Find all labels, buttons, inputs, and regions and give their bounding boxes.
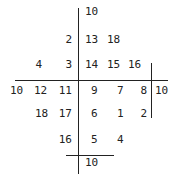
grid-number: 10 xyxy=(155,85,173,97)
grid-number: 10 xyxy=(10,85,28,97)
grid-number: 12 xyxy=(34,85,52,97)
grid-number: 2 xyxy=(54,34,72,46)
grid-number: 4 xyxy=(117,134,135,146)
grid-number: 3 xyxy=(54,59,72,71)
grid-number: 15 xyxy=(107,59,125,71)
grid-number: 13 xyxy=(85,34,103,46)
main-vertical-line xyxy=(78,8,79,174)
grid-number: 10 xyxy=(85,6,103,18)
grid-number: 4 xyxy=(24,59,42,71)
grid-number: 17 xyxy=(54,108,72,120)
main-horizontal-line xyxy=(15,80,168,81)
grid-number: 16 xyxy=(54,134,72,146)
grid-number: 14 xyxy=(85,59,103,71)
grid-number: 18 xyxy=(35,108,53,120)
grid-number: 11 xyxy=(54,85,72,97)
grid-number: 8 xyxy=(129,85,147,97)
grid-number: 9 xyxy=(91,85,109,97)
grid-number: 6 xyxy=(91,108,109,120)
grid-number: 16 xyxy=(128,59,146,71)
grid-number: 18 xyxy=(107,34,125,46)
grid-number: 5 xyxy=(91,134,109,146)
grid-number: 2 xyxy=(129,108,147,120)
grid-number: 10 xyxy=(85,157,103,169)
right-vertical-line xyxy=(151,63,152,118)
